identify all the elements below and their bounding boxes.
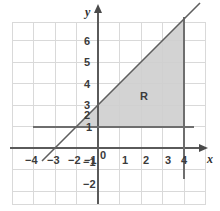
- x-tick-label-neg2: −2: [68, 155, 81, 166]
- y-tick-label-6: 6: [84, 36, 90, 47]
- region-label-r: R: [140, 91, 148, 102]
- x-axis-label: x: [207, 153, 213, 165]
- x-tick-label-1: 1: [122, 155, 128, 166]
- y-tick-label-5: 5: [84, 57, 90, 68]
- x-axis: [10, 144, 208, 152]
- x-tick-label-neg3: −3: [47, 155, 60, 166]
- y-tick-label-2: 2: [84, 110, 90, 121]
- x-tick-label-2: 2: [143, 155, 149, 166]
- coordinate-plane: [0, 0, 220, 211]
- origin-label: 0: [100, 150, 106, 161]
- graph-figure: 6 5 4 3 2 1 −1 −2 0 −4 −3 −2 −1 1 2 3 4 …: [0, 0, 220, 211]
- x-tick-label-4: 4: [181, 155, 187, 166]
- y-axis-label: y: [85, 6, 90, 18]
- y-tick-label-neg2: −2: [83, 179, 96, 190]
- y-tick-label-4: 4: [84, 79, 90, 90]
- x-tick-label-neg1: −1: [84, 155, 97, 166]
- x-tick-label-neg4: −4: [25, 155, 38, 166]
- y-tick-label-1: 1: [86, 122, 92, 133]
- x-tick-label-3: 3: [165, 155, 171, 166]
